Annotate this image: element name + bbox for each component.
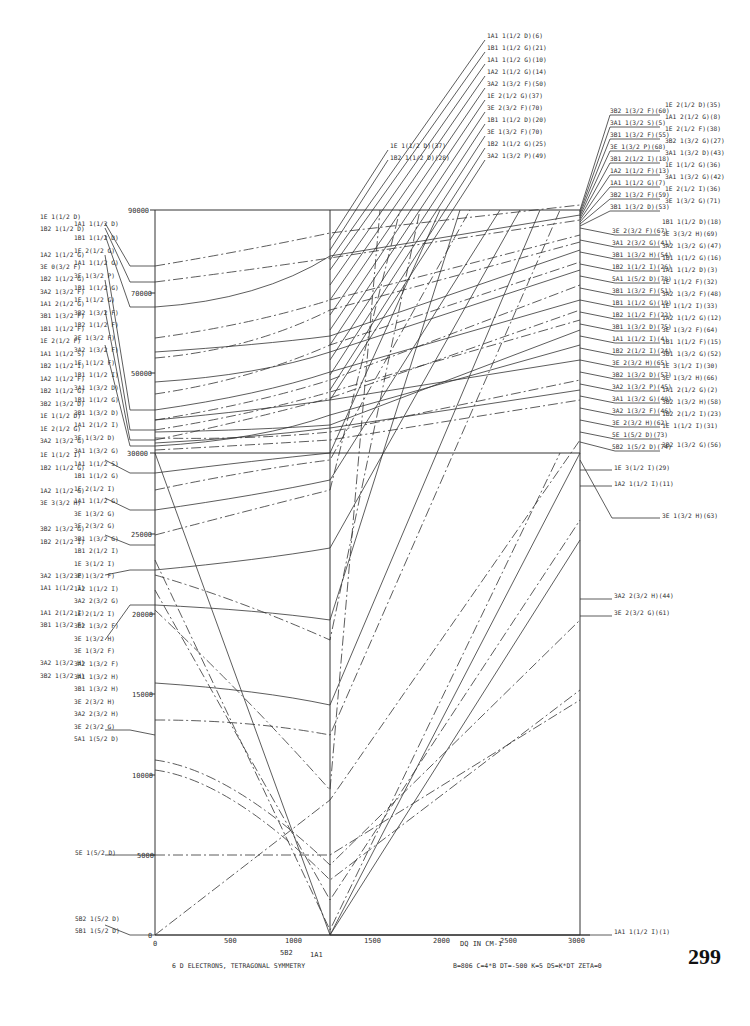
svg-text:3A2 1(3/2 F): 3A2 1(3/2 F)	[74, 660, 119, 667]
svg-text:1B2 1(1/2 D)(28): 1B2 1(1/2 D)(28)	[390, 154, 450, 161]
svg-text:5E 1(5/2 D): 5E 1(5/2 D)	[75, 849, 116, 856]
svg-text:1A1 1(1/2 G)(10): 1A1 1(1/2 G)(10)	[487, 56, 547, 63]
svg-text:3B1 1(3/2 F)(55): 3B1 1(3/2 F)(55)	[610, 131, 670, 138]
svg-text:3E 1(3/2 D): 3E 1(3/2 D)	[74, 434, 115, 441]
svg-text:3E 1(3/2 F): 3E 1(3/2 F)	[74, 572, 115, 579]
svg-text:1E 1(1/2 F)(32): 1E 1(1/2 F)(32)	[662, 278, 718, 285]
svg-text:2500: 2500	[500, 937, 517, 945]
svg-text:1E 3(1/2 I): 1E 3(1/2 I)	[74, 560, 115, 567]
svg-text:3B2 1(3/2 G)(27): 3B2 1(3/2 G)(27)	[665, 137, 725, 144]
svg-text:1B1 1(1/2 G): 1B1 1(1/2 G)	[74, 284, 119, 291]
svg-text:30000: 30000	[127, 450, 148, 458]
svg-text:3E 1(3/2 F)(70): 3E 1(3/2 F)(70)	[487, 128, 543, 135]
svg-text:1A2 1(1/2 I): 1A2 1(1/2 I)	[74, 585, 119, 592]
svg-text:3B2 1(3/2 H)(58): 3B2 1(3/2 H)(58)	[662, 398, 722, 405]
svg-text:1A2 1(1/2 F)(13): 1A2 1(1/2 F)(13)	[610, 167, 670, 174]
svg-text:3E 2(3/2 F)(70): 3E 2(3/2 F)(70)	[487, 104, 543, 111]
svg-text:3E 2(3/2 H): 3E 2(3/2 H)	[74, 698, 115, 705]
svg-text:3E 1(3/2 P)(68): 3E 1(3/2 P)(68)	[610, 143, 666, 150]
svg-text:1B1 1(1/2 G)(21): 1B1 1(1/2 G)(21)	[487, 44, 547, 51]
svg-text:5B1 1(5/2 D): 5B1 1(5/2 D)	[75, 927, 120, 934]
svg-text:3A1 1(3/2 G)(42): 3A1 1(3/2 G)(42)	[665, 173, 725, 180]
svg-text:1B1 2(1/2 I): 1B1 2(1/2 I)	[74, 547, 119, 554]
svg-text:3E 2(3/2 H)(62): 3E 2(3/2 H)(62)	[612, 419, 668, 426]
svg-text:1B1 1(1/2 F)(15): 1B1 1(1/2 F)(15)	[662, 338, 722, 345]
svg-text:3B1 1(3/2 D)(53): 3B1 1(3/2 D)(53)	[610, 203, 670, 210]
svg-text:3A2 2(3/2 H)(44): 3A2 2(3/2 H)(44)	[614, 592, 674, 599]
svg-text:5E 1(5/2 D)(73): 5E 1(5/2 D)(73)	[612, 431, 668, 438]
svg-text:3E 1(3/2 F): 3E 1(3/2 F)	[74, 334, 115, 341]
svg-text:3A1 1(3/2 G): 3A1 1(3/2 G)	[74, 447, 119, 454]
svg-text:3E 2(3/2 G): 3E 2(3/2 G)	[74, 522, 115, 529]
svg-text:3B2 1(3/2 F)(60): 3B2 1(3/2 F)(60)	[610, 107, 670, 114]
svg-text:1B1 1(1/2 I): 1B1 1(1/2 I)	[74, 371, 119, 378]
svg-text:3E 1(3/2 P): 3E 1(3/2 P)	[74, 272, 115, 279]
left-labels-inner: 1A1 1(1/2 D) 1B1 1(1/2 D) 1E 2(1/2 G) 1A…	[74, 220, 119, 742]
svg-text:20000: 20000	[132, 611, 153, 619]
crossover-marker-1a1: 1A1	[310, 951, 323, 959]
energy-curves	[155, 205, 580, 935]
svg-text:1E 2(1/2 D)(35): 1E 2(1/2 D)(35)	[665, 101, 721, 108]
svg-text:500: 500	[224, 937, 237, 945]
svg-text:1A1 2(1/2 G)(8): 1A1 2(1/2 G)(8)	[665, 113, 721, 120]
svg-text:1E 3(1/2 I)(29): 1E 3(1/2 I)(29)	[614, 464, 670, 471]
svg-text:1E 2(1/2 I)(36): 1E 2(1/2 I)(36)	[665, 185, 721, 192]
y-axis-ticks: 90000 70000 50000 30000 25000 20000 1500…	[127, 207, 155, 940]
svg-text:1E 1(1/2 D)(37): 1E 1(1/2 D)(37)	[390, 142, 446, 149]
svg-text:3E 2(3/2 F)(67): 3E 2(3/2 F)(67)	[612, 227, 668, 234]
svg-text:1A2 1(1/2 G)(12): 1A2 1(1/2 G)(12)	[662, 314, 722, 321]
svg-text:1E 3(1/2 I)(30): 1E 3(1/2 I)(30)	[662, 362, 718, 369]
svg-text:1B2 1(1/2 F): 1B2 1(1/2 F)	[74, 321, 119, 328]
svg-text:3B1 1(3/2 G): 3B1 1(3/2 G)	[74, 535, 119, 542]
page-number: 299	[688, 944, 721, 970]
svg-text:3A2 2(3/2 H): 3A2 2(3/2 H)	[74, 710, 119, 717]
svg-text:3A2 2(3/2 G): 3A2 2(3/2 G)	[74, 597, 119, 604]
svg-text:70000: 70000	[131, 290, 152, 298]
svg-text:1A1 1(1/2 G): 1A1 1(1/2 G)	[74, 259, 119, 266]
svg-text:3A2 1(3/2 F): 3A2 1(3/2 F)	[74, 346, 119, 353]
svg-text:15000: 15000	[132, 691, 153, 699]
svg-text:3E 1(3/2 F): 3E 1(3/2 F)	[74, 647, 115, 654]
svg-text:1E 1(1/2 G)(36): 1E 1(1/2 G)(36)	[665, 161, 721, 168]
svg-text:3A1 1(3/2 D): 3A1 1(3/2 D)	[74, 384, 119, 391]
svg-text:3B1 1(3/2 H): 3B1 1(3/2 H)	[74, 685, 119, 692]
svg-text:25000: 25000	[131, 531, 152, 539]
svg-text:1A1 1(1/2 D): 1A1 1(1/2 D)	[74, 220, 119, 227]
svg-text:1E 2(1/2 G)(37): 1E 2(1/2 G)(37)	[487, 92, 543, 99]
tanabe-sugano-chart: 90000 70000 50000 30000 25000 20000 1500…	[0, 0, 750, 1026]
svg-text:1A1 1(1/2 S): 1A1 1(1/2 S)	[74, 460, 119, 467]
svg-text:5A1 1(5/2 D): 5A1 1(5/2 D)	[74, 735, 119, 742]
svg-text:3B1 1(3/2 D): 3B1 1(3/2 D)	[74, 409, 119, 416]
svg-text:3E 2(3/2 G)(61): 3E 2(3/2 G)(61)	[614, 609, 670, 616]
left-connectors	[105, 223, 155, 935]
right-labels-upper: 3B2 1(3/2 F)(60) 3A1 1(3/2 S)(5) 3B1 1(3…	[580, 101, 725, 226]
svg-text:3E 1(3/2 H)(66): 3E 1(3/2 H)(66)	[662, 374, 718, 381]
svg-text:1B1 1(1/2 D)(20): 1B1 1(1/2 D)(20)	[487, 116, 547, 123]
svg-text:3E 1(3/2 H): 3E 1(3/2 H)	[74, 635, 115, 642]
svg-text:3A1 1(3/2 H): 3A1 1(3/2 H)	[74, 673, 119, 680]
svg-text:0: 0	[148, 932, 152, 940]
svg-text:1A1 1(1/2 G): 1A1 1(1/2 G)	[74, 497, 119, 504]
svg-text:1E 2(1/2 I): 1E 2(1/2 I)	[74, 485, 115, 492]
top-labels: 1A1 1(1/2 D)(6) 1B1 1(1/2 G)(21) 1A1 1(1…	[330, 32, 547, 400]
svg-text:1A1 1(1/2 D)(6): 1A1 1(1/2 D)(6)	[487, 32, 543, 39]
svg-text:3B1 1(3/2 G)(52): 3B1 1(3/2 G)(52)	[662, 350, 722, 357]
svg-text:1A2 1(1/2 I)(11): 1A2 1(1/2 I)(11)	[614, 480, 674, 487]
svg-text:1A1 2(1/2 G)(2): 1A1 2(1/2 G)(2)	[662, 386, 718, 393]
right-labels-lower: 1E 3(1/2 I)(29) 1A2 1(1/2 I)(11) 3E 1(3/…	[580, 460, 718, 935]
svg-text:3E 1(3/2 G): 3E 1(3/2 G)	[74, 510, 115, 517]
svg-text:1B1 1(1/2 D)(18): 1B1 1(1/2 D)(18)	[662, 218, 722, 225]
svg-text:1E 1(1/2 F): 1E 1(1/2 F)	[74, 359, 115, 366]
svg-text:1B1 1(1/2 G)(16): 1B1 1(1/2 G)(16)	[662, 254, 722, 261]
svg-text:1B1 1(1/2 D): 1B1 1(1/2 D)	[74, 234, 119, 241]
svg-text:3E 1(3/2 H)(63): 3E 1(3/2 H)(63)	[662, 512, 718, 519]
svg-text:1B1 1(1/2 G): 1B1 1(1/2 G)	[74, 472, 119, 479]
svg-text:3E 2(3/2 H)(65): 3E 2(3/2 H)(65)	[612, 359, 668, 366]
svg-text:5B2 1(5/2 D): 5B2 1(5/2 D)	[75, 915, 120, 922]
svg-text:90000: 90000	[128, 207, 149, 215]
svg-text:3A2 1(3/2 F)(50): 3A2 1(3/2 F)(50)	[487, 80, 547, 87]
svg-text:3B2 1(3/2 G)(56): 3B2 1(3/2 G)(56)	[662, 441, 722, 448]
svg-text:3B2 1(3/2 F)(59): 3B2 1(3/2 F)(59)	[610, 191, 670, 198]
x-axis-ticks: 0 500 1000 1500 2000 2500 3000 DQ IN CM-…	[153, 937, 585, 959]
svg-text:1E 2(1/2 F)(38): 1E 2(1/2 F)(38)	[665, 125, 721, 132]
